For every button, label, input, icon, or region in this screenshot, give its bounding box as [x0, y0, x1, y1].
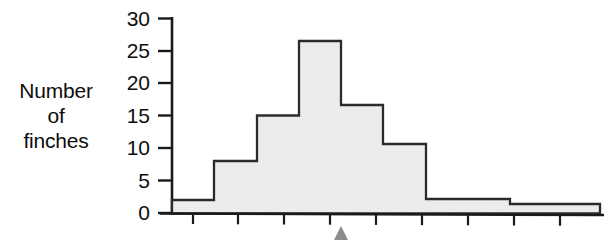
y-axis-ticks — [158, 19, 172, 214]
y-tick-label-5: 5 — [138, 169, 150, 192]
histogram-bars-outline — [172, 41, 600, 214]
mean-marker-triangle-icon — [334, 226, 348, 240]
histogram-plot: 30 25 20 15 10 5 0 — [0, 0, 609, 247]
y-tick-labels: 30 25 20 15 10 5 0 — [127, 7, 150, 224]
x-axis-line — [160, 214, 604, 216]
y-tick-label-15: 15 — [127, 104, 150, 127]
y-tick-label-20: 20 — [127, 71, 150, 94]
y-tick-label-30: 30 — [127, 7, 150, 30]
y-tick-label-0: 0 — [138, 201, 150, 224]
histogram-figure: Number of finches 30 25 20 15 10 5 0 — [0, 0, 609, 247]
y-tick-label-25: 25 — [127, 39, 150, 62]
y-tick-label-10: 10 — [127, 136, 150, 159]
